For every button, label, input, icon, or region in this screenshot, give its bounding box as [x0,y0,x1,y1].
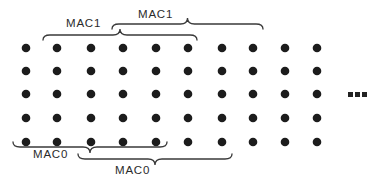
ellipsis-dot [362,92,367,97]
ellipsis-dot [355,92,360,97]
ellipsis-dot [348,92,353,97]
mac1-label-left: MAC1 [66,17,101,29]
continuation-ellipsis [348,92,367,97]
mac1-label-right: MAC1 [138,8,173,20]
mac0-label-right: MAC0 [115,164,150,176]
mac0-label-left: MAC0 [33,148,68,160]
figure: MAC1 MAC1 MAC0 MAC0 [0,0,385,181]
